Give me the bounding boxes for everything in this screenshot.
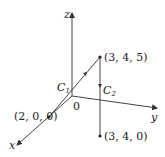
z-axis-label: z (64, 9, 70, 20)
diagram-canvas: z y x 0 (3, 4, 5) (2, 0, 0) (3, 4, 0) C1… (0, 0, 165, 157)
point-label-3-4-0: (3, 4, 0) (104, 131, 148, 142)
point-3-4-0 (98, 134, 101, 137)
point-label-3-4-5: (3, 4, 5) (104, 52, 148, 63)
y-axis-label: y (151, 112, 157, 123)
curve-label-c1: C1 (57, 82, 70, 95)
origin-label: 0 (73, 101, 80, 112)
c2-sub: 2 (111, 90, 115, 98)
curve-label-c2: C2 (103, 85, 116, 98)
point-3-4-5 (98, 55, 101, 58)
x-axis-label: x (9, 140, 15, 151)
c2-direction-arrow-icon (98, 84, 102, 88)
point-label-2-0-0: (2, 0, 0) (14, 111, 58, 122)
c1-sub: 1 (65, 87, 69, 95)
